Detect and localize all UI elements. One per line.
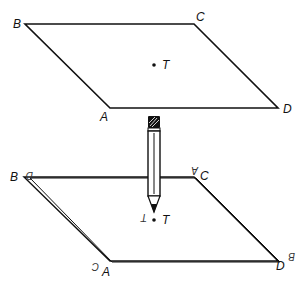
top-point-t [152, 63, 156, 67]
bottom-label-c: C [200, 169, 209, 183]
mirrored-label-t: T [140, 212, 147, 223]
top-parallelogram [25, 24, 278, 108]
pencil-icon [148, 116, 160, 213]
mirrored-label-a: A [191, 165, 199, 176]
mirrored-label-b: B [288, 251, 295, 262]
bottom-label-b: B [10, 170, 18, 184]
mirrored-label-c: C [91, 261, 99, 272]
bottom-label-d: D [276, 259, 285, 273]
bottom-point-t [152, 218, 156, 222]
top-label-c: C [196, 10, 205, 24]
bottom-label-a: A [101, 265, 110, 279]
bottom-label-t: T [162, 213, 171, 227]
top-label-t: T [162, 58, 171, 72]
mirrored-label-d: D [26, 170, 33, 181]
top-sheet: T B C A D [13, 10, 292, 124]
top-label-a: A [99, 110, 108, 124]
top-label-b: B [13, 17, 21, 31]
top-label-d: D [283, 102, 292, 116]
diagram-canvas: T B C A D B C A D D A C B T T [0, 0, 305, 285]
